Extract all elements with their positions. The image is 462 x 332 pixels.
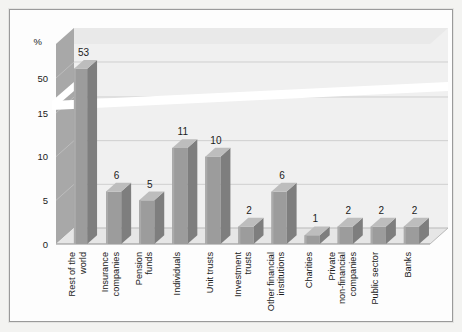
category-label-10: Banks xyxy=(403,252,413,278)
category-label-line: Pension xyxy=(134,252,144,285)
bar-side-1 xyxy=(121,183,131,244)
bar-value-label-4: 10 xyxy=(210,135,222,146)
plot-top-bevel xyxy=(56,28,448,44)
bar-value-label-8: 2 xyxy=(345,205,351,216)
bar-value-label-1: 6 xyxy=(114,170,120,181)
bar-face-6 xyxy=(271,192,286,244)
bar-side-3 xyxy=(187,139,197,244)
category-label-7: Charities xyxy=(304,252,314,289)
category-label-5: Investmenttrusts xyxy=(233,252,253,297)
category-label-4: Unit trusts xyxy=(205,252,215,294)
y-tick-label-15: 15 xyxy=(37,108,48,119)
chart-svg: 05101550%53Rest of theworld6Insurancecom… xyxy=(10,10,454,323)
category-label-line: companies xyxy=(111,252,121,297)
category-label-2: Pensionfunds xyxy=(134,252,154,286)
category-label-0: Rest of theworld xyxy=(67,252,87,296)
category-label-line: Rest of the xyxy=(67,252,77,296)
y-axis-title: % xyxy=(34,36,43,47)
category-label-line: non-financial xyxy=(337,252,347,304)
category-label-line: trusts xyxy=(243,252,253,275)
bar-face-8 xyxy=(338,227,353,244)
bar-face-10 xyxy=(404,227,419,244)
y-tick-label-10: 10 xyxy=(37,151,48,162)
category-label-line: Investment xyxy=(233,252,243,297)
y-tick-label-5: 5 xyxy=(43,195,48,206)
bar-face-7 xyxy=(305,235,320,244)
bar-group-4: 10Unit trusts xyxy=(205,135,231,293)
category-label-line: institutions xyxy=(276,252,286,296)
bar-side-4 xyxy=(221,148,231,244)
bar-value-label-5: 2 xyxy=(246,205,252,216)
bar-highlight-10 xyxy=(404,227,406,244)
bar-value-label-2: 5 xyxy=(147,179,153,190)
bar-value-label-10: 2 xyxy=(412,205,418,216)
bar-value-label-6: 6 xyxy=(279,170,285,181)
bar-highlight-5 xyxy=(238,227,240,244)
bar-highlight-6 xyxy=(271,192,273,244)
category-label-line: world xyxy=(78,252,88,275)
bar-face-1 xyxy=(106,192,121,244)
category-label-line: Banks xyxy=(403,252,413,278)
bar-highlight-8 xyxy=(338,227,340,244)
bar-chart: 05101550%53Rest of theworld6Insurancecom… xyxy=(10,10,454,323)
category-label-line: Unit trusts xyxy=(205,252,215,294)
category-label-line: Private xyxy=(327,252,337,281)
category-label-line: Public sector xyxy=(370,252,380,305)
bar-group-3: 11Individuals xyxy=(172,126,198,295)
category-label-line: Insurance xyxy=(100,252,110,292)
bar-highlight-3 xyxy=(172,148,174,244)
category-label-1: Insurancecompanies xyxy=(100,252,120,297)
category-label-line: Charities xyxy=(304,252,314,289)
category-label-8: Privatenon-financialcompanies xyxy=(327,252,358,305)
bar-highlight-4 xyxy=(205,157,207,244)
bar-value-label-3: 11 xyxy=(178,126,189,137)
bar-face-2 xyxy=(139,200,154,244)
bar-highlight-1 xyxy=(106,192,108,244)
bar-value-label-7: 1 xyxy=(312,213,318,224)
y-tick-label-0: 0 xyxy=(43,239,48,250)
bar-value-label-9: 2 xyxy=(379,205,385,216)
bar-face-3 xyxy=(172,148,187,244)
category-label-line: funds xyxy=(144,252,154,275)
bar-highlight-0 xyxy=(74,69,76,244)
bar-side-0 xyxy=(87,60,97,244)
chart-frame: 05101550%53Rest of theworld6Insurancecom… xyxy=(9,9,453,322)
bar-highlight-2 xyxy=(139,200,141,244)
category-label-3: Individuals xyxy=(172,252,182,296)
bar-highlight-7 xyxy=(305,235,307,244)
category-label-line: companies xyxy=(348,252,358,297)
y-tick-label-50: 50 xyxy=(37,73,48,84)
bar-highlight-9 xyxy=(371,227,373,244)
bar-value-label-0: 53 xyxy=(78,47,90,58)
y-axis-side-wall xyxy=(56,28,74,244)
category-label-9: Public sector xyxy=(370,252,380,305)
bar-face-5 xyxy=(238,227,253,244)
category-label-6: Other financialinstitutions xyxy=(266,252,286,312)
scanned-page: 05101550%53Rest of theworld6Insurancecom… xyxy=(0,0,462,332)
bar-face-4 xyxy=(205,157,220,244)
category-label-line: Other financial xyxy=(266,252,276,311)
bar-side-2 xyxy=(154,192,164,244)
category-label-line: Individuals xyxy=(172,252,182,296)
bar-side-6 xyxy=(287,183,297,244)
bar-face-9 xyxy=(371,227,386,244)
